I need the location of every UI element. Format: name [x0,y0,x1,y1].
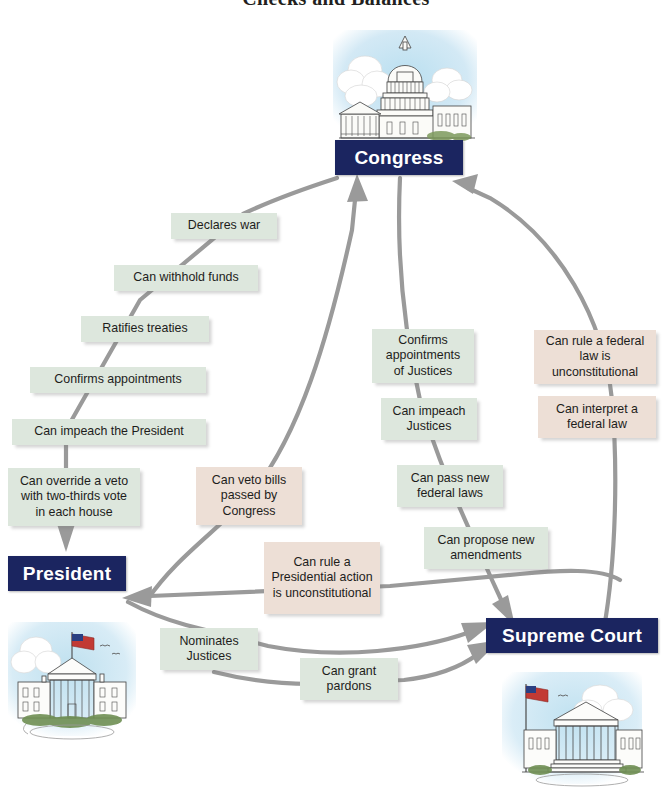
branch-plate-supreme-court[interactable]: Supreme Court [486,618,658,653]
connector-supreme-court-to-president [150,571,620,596]
power-chip-text: Confirms appointments [54,372,181,387]
power-chip-text: Can propose new amendments [431,533,541,563]
power-chip-can-override-veto[interactable]: Can override a veto with two-thirds vote… [8,468,140,526]
power-chip-confirms-justices[interactable]: Confirms appointments of Justices [372,329,474,383]
capitol-icon [325,26,485,144]
power-chip-text: Nominates Justices [167,634,251,664]
power-chip-can-veto-bills[interactable]: Can veto bills passed by Congress [196,467,302,525]
power-chip-text: Confirms appointments of Justices [379,333,467,379]
power-chip-can-impeach-justices[interactable]: Can impeach Justices [381,398,477,440]
power-chip-confirms-appointments[interactable]: Confirms appointments [30,367,206,393]
power-chip-can-grant-pardons[interactable]: Can grant pardons [300,658,398,700]
arrowhead-into-congress-left [347,174,368,202]
power-chip-can-impeach-president[interactable]: Can impeach the President [12,419,206,445]
power-chip-text: Can impeach Justices [388,404,470,434]
checks-and-balances-diagram: Checks and Balances [0,0,672,794]
power-chip-ratifies-treaties[interactable]: Ratifies treaties [81,316,209,342]
power-chip-text: Can impeach the President [34,424,183,439]
branch-label-president: President [23,563,111,585]
arrowhead-into-president-right [122,586,152,607]
supreme-court-building-illustration [496,668,648,790]
power-chip-text: Can rule a Presidential action is uncons… [271,555,373,601]
power-chip-can-interpret-federal-law[interactable]: Can interpret a federal law [538,396,656,438]
branch-label-congress: Congress [354,147,443,169]
power-chip-text: Can veto bills passed by Congress [203,473,295,519]
power-chip-text: Can override a veto with two-thirds vote… [15,474,133,520]
white-house-icon [4,616,140,744]
power-chip-text: Declares war [188,218,260,233]
power-chip-can-propose-amendments[interactable]: Can propose new amendments [424,527,548,569]
power-chip-text: Can rule a federal law is unconstitution… [541,334,649,380]
power-chip-can-withhold-funds[interactable]: Can withhold funds [114,265,258,291]
connector-president-to-congress [147,190,356,600]
power-chip-presidential-action-unconstitutional[interactable]: Can rule a Presidential action is uncons… [264,542,380,614]
power-chip-text: Can interpret a federal law [545,402,649,432]
branch-plate-president[interactable]: President [8,556,126,591]
power-chip-text: Ratifies treaties [102,321,187,336]
supreme-court-icon [496,668,648,790]
power-chip-federal-law-unconstitutional[interactable]: Can rule a federal law is unconstitution… [534,330,656,384]
power-chip-text: Can pass new federal laws [404,471,496,501]
power-chip-can-pass-federal-laws[interactable]: Can pass new federal laws [397,465,503,507]
branch-label-supreme-court: Supreme Court [502,625,642,647]
white-house-building-illustration [4,616,140,744]
power-chip-text: Can withhold funds [133,270,238,285]
power-chip-nominates-justices[interactable]: Nominates Justices [160,628,258,670]
power-chip-text: Can grant pardons [307,664,391,694]
branch-plate-congress[interactable]: Congress [335,140,463,175]
power-chip-declares-war[interactable]: Declares war [171,213,277,239]
capitol-building-illustration [325,26,485,144]
arrowhead-into-president [57,524,75,552]
